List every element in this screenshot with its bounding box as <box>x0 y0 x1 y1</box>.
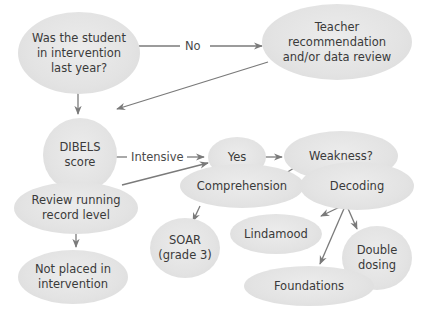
edge-label-intensive: Intensive <box>128 150 187 164</box>
node-in-intervention-question: Was the student in intervention last yea… <box>18 12 140 94</box>
node-label: Teacher recommendation and/or data revie… <box>283 20 392 65</box>
node-label: Decoding <box>330 179 384 194</box>
node-review-running-record: Review running record level <box>14 182 138 234</box>
node-comprehension: Comprehension <box>180 164 304 208</box>
flowchart-canvas: Was the student in intervention last yea… <box>0 0 425 315</box>
node-label: Lindamood <box>244 227 308 242</box>
node-soar-grade3: SOAR (grade 3) <box>150 218 220 278</box>
node-label: Review running record level <box>31 193 120 223</box>
edge-label-no: No <box>182 39 204 53</box>
node-label: Not placed in intervention <box>35 262 111 292</box>
node-label: Was the student in intervention last yea… <box>32 31 126 76</box>
node-label: Double dosing <box>357 243 398 273</box>
node-lindamood: Lindamood <box>230 214 322 254</box>
node-label: DIBELS score <box>59 140 100 170</box>
node-dibels-score: DIBELS score <box>43 118 117 192</box>
node-decoding: Decoding <box>300 162 414 210</box>
edge-teacher-to-dibels <box>117 62 268 109</box>
node-teacher-recommendation: Teacher recommendation and/or data revie… <box>262 4 412 80</box>
node-label: Yes <box>228 150 247 165</box>
node-label: Comprehension <box>197 179 287 194</box>
node-foundations: Foundations <box>244 266 374 306</box>
node-label: SOAR (grade 3) <box>158 233 211 263</box>
node-label: Foundations <box>274 279 344 294</box>
node-not-placed: Not placed in intervention <box>18 250 128 304</box>
